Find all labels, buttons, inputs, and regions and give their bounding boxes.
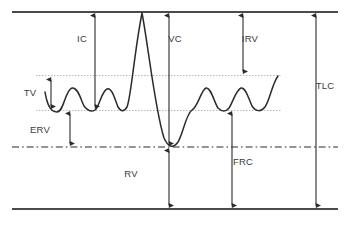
label-vital-capacity: VC: [168, 33, 182, 44]
label-tidal-volume: TV: [24, 87, 37, 98]
label-total-lung-capacity: TLC: [316, 80, 335, 91]
label-residual-volume: RV: [124, 168, 138, 179]
label-inspiratory-reserve-volume: IRV: [242, 33, 259, 44]
lung-volumes-diagram: IC TV ERV RV VC IRV FRC TLC: [0, 0, 350, 227]
label-inspiratory-capacity: IC: [77, 33, 87, 44]
label-functional-residual-capacity: FRC: [233, 156, 253, 167]
label-expiratory-reserve-volume: ERV: [30, 124, 50, 135]
spirogram-canvas: IC TV ERV RV VC IRV FRC TLC: [0, 0, 350, 227]
